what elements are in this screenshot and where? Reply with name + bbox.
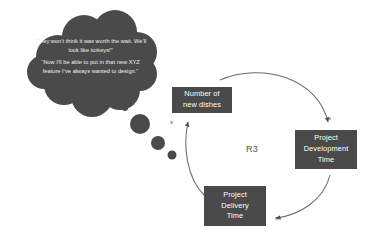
polarity-label-delivery-to-dishes: s [170, 119, 173, 125]
node-label-line-1: Project [223, 190, 247, 199]
node-label-line-2: new dishes [183, 100, 221, 109]
node-label-line-3: Time [318, 155, 335, 164]
polarity-label-dev-to-delivery: s [275, 215, 278, 221]
node-label-line-2: Delivery [221, 201, 249, 210]
node-label-delivery-time: Project Delivery Time [221, 190, 249, 222]
loop-label-r3: R3 [246, 144, 258, 154]
node-label-dev-time: Project Development Time [304, 133, 349, 165]
node-project-development-time[interactable]: Project Development Time [295, 130, 357, 169]
link-dev-to-delivery [276, 175, 330, 218]
node-label-new-dishes: Number of new dishes [183, 89, 221, 110]
diagram-canvas: “They won’t think it was worth the wait.… [0, 0, 375, 244]
diagram-svg [0, 0, 375, 244]
node-number-of-new-dishes[interactable]: Number of new dishes [172, 87, 232, 113]
polarity-label-dishes-to-dev: s [328, 115, 331, 121]
link-dishes-to-dev [220, 73, 328, 122]
node-label-line-1: Project [314, 133, 338, 142]
node-project-delivery-time[interactable]: Project Delivery Time [204, 186, 266, 226]
thought-trail-dots [122, 105, 177, 160]
thought-bubble-shape [27, 10, 157, 117]
node-label-line-1: Number of [184, 89, 219, 98]
link-delivery-to-dishes [186, 122, 205, 196]
node-label-line-3: Time [227, 211, 244, 220]
node-label-line-2: Development [304, 144, 349, 153]
